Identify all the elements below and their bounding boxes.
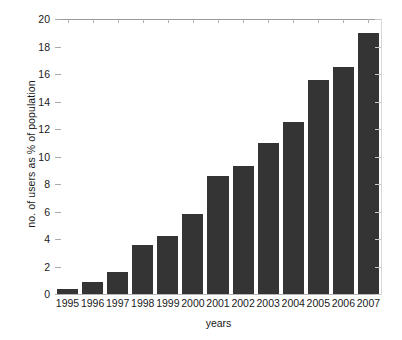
y-tick-label: 4 — [10, 233, 50, 245]
y-tick-label: 0 — [10, 288, 50, 300]
y-tick-mark — [55, 184, 61, 185]
y-tick-mark-right — [375, 47, 381, 48]
bar-2001 — [207, 176, 228, 294]
top-tick-mark — [243, 19, 244, 23]
top-tick-mark — [168, 19, 169, 23]
y-tick-mark-right — [375, 294, 381, 295]
y-tick-mark-right — [375, 19, 381, 20]
y-tick-mark — [55, 239, 61, 240]
y-axis-tick-labels: 02468101214161820 — [0, 0, 50, 340]
y-tick-mark — [55, 102, 61, 103]
x-axis-tick-labels: 1995199619971998199920002001200220032004… — [55, 297, 382, 313]
bar-2004 — [283, 122, 304, 294]
x-tick-label: 1998 — [131, 297, 154, 309]
y-tick-mark — [55, 129, 61, 130]
top-tick-mark — [368, 19, 369, 23]
y-tick-mark-right — [375, 239, 381, 240]
x-tick-label: 2003 — [256, 297, 279, 309]
y-tick-mark — [55, 212, 61, 213]
y-tick-mark — [55, 157, 61, 158]
x-tick-label: 1996 — [81, 297, 104, 309]
y-tick-mark — [55, 19, 61, 20]
bottom-axis-line — [55, 294, 382, 295]
top-tick-mark — [93, 19, 94, 23]
bar-2006 — [333, 67, 354, 294]
top-tick-mark — [318, 19, 319, 23]
x-axis-title: years — [55, 317, 382, 329]
bar-1999 — [157, 236, 178, 294]
x-tick-label: 2000 — [181, 297, 204, 309]
bar-2002 — [233, 166, 254, 294]
y-tick-mark-right — [375, 184, 381, 185]
y-tick-mark-right — [375, 212, 381, 213]
x-tick-label: 1999 — [156, 297, 179, 309]
y-tick-mark — [55, 267, 61, 268]
top-tick-mark — [268, 19, 269, 23]
top-tick-mark — [193, 19, 194, 23]
y-tick-label: 14 — [10, 96, 50, 108]
x-tick-label: 2006 — [332, 297, 355, 309]
y-tick-mark — [55, 74, 61, 75]
y-tick-mark-right — [375, 129, 381, 130]
bar-1997 — [107, 272, 128, 294]
y-tick-mark-right — [375, 157, 381, 158]
top-tick-mark — [68, 19, 69, 23]
x-tick-label: 2004 — [282, 297, 305, 309]
y-tick-label: 2 — [10, 261, 50, 273]
y-tick-label: 10 — [10, 151, 50, 163]
top-tick-mark — [343, 19, 344, 23]
bar-2005 — [308, 80, 329, 295]
y-tick-mark-right — [375, 102, 381, 103]
right-axis-line — [381, 19, 382, 295]
y-tick-label: 6 — [10, 206, 50, 218]
x-tick-label: 2007 — [357, 297, 380, 309]
x-tick-label: 2002 — [231, 297, 254, 309]
top-tick-mark — [218, 19, 219, 23]
y-tick-mark — [55, 47, 61, 48]
y-tick-mark-right — [375, 74, 381, 75]
top-tick-mark — [293, 19, 294, 23]
bar-2007 — [358, 33, 379, 294]
x-tick-label: 2001 — [206, 297, 229, 309]
bar-chart-figure: no. of users as % of population 02468101… — [0, 0, 402, 340]
top-tick-mark — [143, 19, 144, 23]
y-tick-mark — [55, 294, 61, 295]
y-tick-label: 20 — [10, 13, 50, 25]
y-tick-label: 12 — [10, 123, 50, 135]
y-tick-label: 18 — [10, 41, 50, 53]
x-tick-label: 1997 — [106, 297, 129, 309]
y-tick-label: 16 — [10, 68, 50, 80]
plot-area — [55, 19, 381, 294]
top-tick-mark — [118, 19, 119, 23]
x-tick-label: 2005 — [307, 297, 330, 309]
x-tick-label: 1995 — [56, 297, 79, 309]
bar-2000 — [182, 214, 203, 294]
bar-1998 — [132, 245, 153, 295]
bar-1996 — [82, 282, 103, 294]
y-tick-label: 8 — [10, 178, 50, 190]
y-tick-mark-right — [375, 267, 381, 268]
bar-2003 — [258, 143, 279, 294]
